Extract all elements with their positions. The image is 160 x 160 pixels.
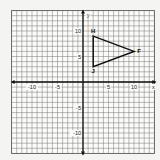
vertex-label-f: F <box>137 48 141 54</box>
vertex-label-h: H <box>91 28 95 34</box>
vertex-label-j: J <box>92 68 95 74</box>
x-tick-label: -10 <box>28 84 36 90</box>
y-tick-label: 10 <box>75 28 81 34</box>
y-tick-label: 5 <box>78 54 81 60</box>
y-tick-label: -10 <box>73 130 81 136</box>
x-tick-label: 5 <box>107 84 110 90</box>
coordinate-grid: -10-5510105-5-10xyHFJ <box>0 0 160 160</box>
y-axis-label: y <box>87 12 90 18</box>
x-axis-label: x <box>152 84 155 90</box>
y-tick-label: -5 <box>76 105 81 111</box>
x-tick-label: -5 <box>55 84 60 90</box>
x-tick-label: 10 <box>131 84 137 90</box>
